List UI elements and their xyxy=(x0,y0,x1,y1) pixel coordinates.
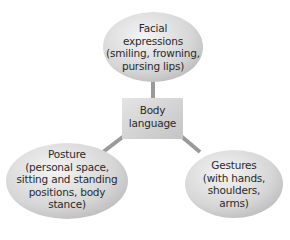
center-label: Body language xyxy=(122,104,183,129)
node-posture-line: positions, body xyxy=(6,186,128,199)
node-posture-label: Posture (personal space, sitting and sta… xyxy=(6,148,128,211)
node-gestures-line: shoulders, xyxy=(185,184,283,197)
node-gestures-line: arms) xyxy=(185,197,283,210)
node-facial-line: (smiling, frowning, xyxy=(103,47,203,60)
node-posture-line: (personal space, xyxy=(6,161,128,174)
node-posture-line: stance) xyxy=(6,198,128,211)
node-facial-line: expressions xyxy=(103,35,203,48)
center-label-line: Body xyxy=(122,104,183,117)
node-posture-line: Posture xyxy=(6,148,128,161)
node-gestures-line: Gestures xyxy=(185,159,283,172)
connector-gestures xyxy=(181,136,200,152)
node-facial-label: Facial expressions (smiling, frowning, p… xyxy=(103,22,203,72)
node-posture-line: sitting and standing xyxy=(6,173,128,186)
center-label-line: language xyxy=(122,117,183,130)
node-facial-line: Facial xyxy=(103,22,203,35)
node-facial-line: pursing lips) xyxy=(103,60,203,73)
node-gestures-line: (with hands, xyxy=(185,172,283,185)
node-gestures-label: Gestures (with hands, shoulders, arms) xyxy=(185,159,283,209)
